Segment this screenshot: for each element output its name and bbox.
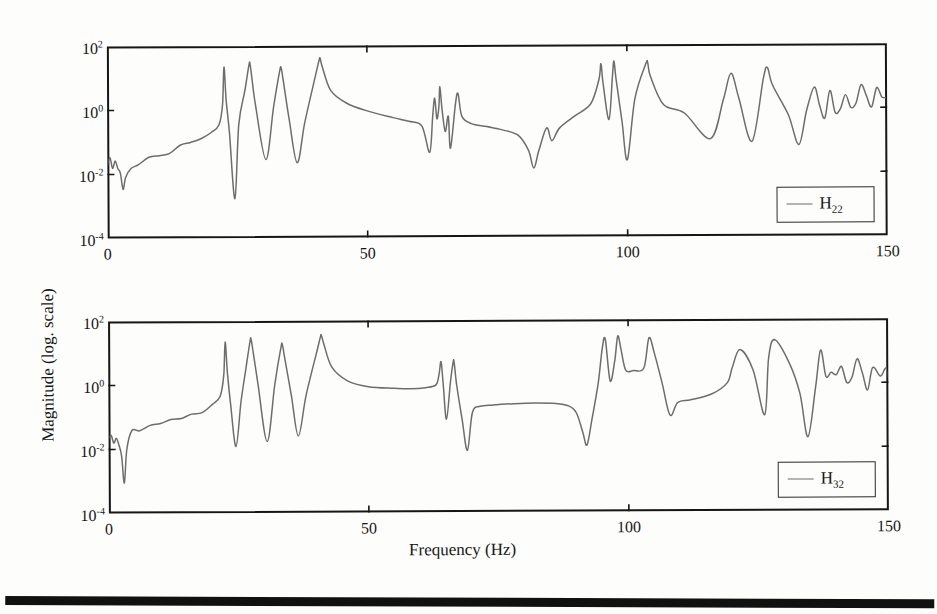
- legend-h32: H32: [778, 461, 876, 497]
- subplot-h32: 102 100 10-2 10-4 0 50 100 150 H32: [0, 273, 937, 577]
- legend-label-h32: H32: [821, 468, 844, 489]
- y-tick-label-h32-0: 102: [58, 315, 104, 333]
- subplot-h22: 102 100 10-2 10-4 0 50 100 150 H22: [0, 0, 937, 292]
- y-tick-label-h32-1: 100: [58, 379, 104, 397]
- x-tick-label-h22-0: 0: [88, 246, 128, 262]
- y-tick-label-h32-2: 10-2: [53, 443, 105, 461]
- y-tick-label-h22-1: 100: [57, 104, 103, 122]
- x-tick-label-h22-3: 150: [868, 243, 908, 259]
- x-tick-label-h22-1: 50: [348, 245, 388, 261]
- x-tick-label-h32-3: 150: [869, 518, 909, 534]
- y-tick-label-h22-2: 10-2: [51, 168, 103, 186]
- frf-curve-h32: [0, 273, 937, 577]
- x-tick-label-h32-2: 100: [609, 519, 649, 535]
- legend-line-icon: [787, 203, 813, 204]
- y-tick-label-h22-0: 102: [57, 40, 103, 58]
- x-tick-label-h32-1: 50: [349, 520, 389, 536]
- legend-line-icon: [788, 478, 814, 479]
- x-axis-title: Frequency (Hz): [409, 540, 516, 560]
- page-bottom-rule: [5, 596, 934, 608]
- x-tick-label-h32-0: 0: [89, 521, 129, 537]
- legend-h22: H22: [776, 186, 874, 222]
- x-tick-label-h22-2: 100: [608, 244, 648, 260]
- figure-frf-magnitude-plots: Magnitude (log. scale) 102 100 10-2 10-4…: [0, 0, 937, 614]
- frf-curve-h22: [0, 0, 937, 292]
- legend-label-h22: H22: [820, 193, 843, 214]
